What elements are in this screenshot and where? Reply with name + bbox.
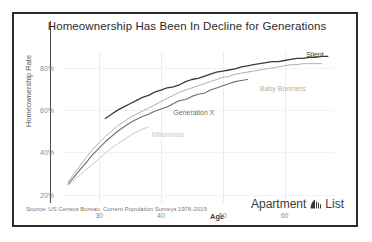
- source-note: Source: US Census Bureau, Current Popula…: [26, 206, 207, 212]
- apartment-list-logo: Apartment List: [251, 197, 344, 211]
- apartment-list-mark-icon: [309, 198, 322, 211]
- x-tick-40: 40: [157, 212, 165, 219]
- y-axis-label: Homeownership Rate: [24, 55, 33, 127]
- x-tick-30: 30: [95, 212, 103, 219]
- chart-title: Homeownership Has Been In Decline for Ge…: [14, 20, 360, 32]
- y-tick-20%: 20%: [40, 191, 54, 198]
- series-label-generation-x: Generation X: [173, 109, 214, 116]
- plot-area: 20%40%60%80% 30405060 MillennialsGenerat…: [62, 51, 334, 203]
- y-tick-40%: 40%: [40, 149, 54, 156]
- y-tick-60%: 60%: [40, 107, 54, 114]
- logo-word-list: List: [325, 197, 344, 211]
- series-line-millennials: [68, 127, 148, 185]
- series-label-millennials: Millennials: [152, 131, 185, 138]
- series-line-baby-boomers: [68, 64, 321, 182]
- chart-card: Homeownership Has Been In Decline for Ge…: [12, 12, 358, 227]
- series-label-silent: Silent: [306, 51, 324, 58]
- x-tick-50: 50: [219, 212, 227, 219]
- x-tick-60: 60: [281, 212, 289, 219]
- series-label-baby-boomers: Baby Boomers: [260, 85, 306, 92]
- logo-word-apartment: Apartment: [251, 197, 306, 211]
- series-lines: [62, 51, 334, 203]
- y-tick-80%: 80%: [40, 64, 54, 71]
